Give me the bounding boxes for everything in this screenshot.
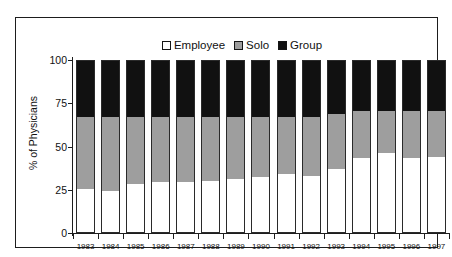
stacked-bar bbox=[126, 60, 145, 233]
y-tick-mark bbox=[68, 233, 72, 234]
bar-column bbox=[374, 60, 399, 233]
bar-segment-employee bbox=[303, 176, 320, 232]
x-tick-label: 1991 bbox=[274, 242, 299, 256]
x-tick-label: 1992 bbox=[299, 242, 324, 256]
bar-segment-employee bbox=[227, 179, 244, 232]
bar-column bbox=[424, 60, 449, 233]
x-tick-mark bbox=[449, 233, 450, 239]
bar-segment-solo bbox=[127, 117, 144, 184]
stacked-bar bbox=[176, 60, 195, 233]
x-tick-mark bbox=[73, 233, 74, 239]
bar-column bbox=[223, 60, 248, 233]
x-tick-label: 1986 bbox=[148, 242, 173, 256]
chart-frame: Employee Solo Group % of Physicians 0255… bbox=[15, 17, 438, 248]
stacked-bar bbox=[277, 60, 296, 233]
bar-segment-group bbox=[77, 61, 94, 117]
stacked-bar bbox=[377, 60, 396, 233]
bar-segment-group bbox=[378, 61, 395, 111]
stacked-bar bbox=[101, 60, 120, 233]
legend-label-employee: Employee bbox=[174, 39, 225, 51]
bar-column bbox=[98, 60, 123, 233]
bar-segment-group bbox=[202, 61, 219, 117]
bar-segment-employee bbox=[353, 158, 370, 232]
bar-segment-solo bbox=[303, 117, 320, 175]
y-tick-label: 75 bbox=[55, 98, 67, 109]
bar-column bbox=[399, 60, 424, 233]
x-tick-mark bbox=[349, 233, 350, 239]
bar-segment-employee bbox=[127, 184, 144, 232]
y-tick-mark bbox=[68, 147, 72, 148]
bar-segment-group bbox=[127, 61, 144, 117]
bar-column bbox=[173, 60, 198, 233]
bar-segment-group bbox=[303, 61, 320, 117]
bar-segment-group bbox=[353, 61, 370, 111]
chart-legend: Employee Solo Group bbox=[16, 39, 452, 51]
stacked-bar bbox=[226, 60, 245, 233]
stacked-bar bbox=[201, 60, 220, 233]
white-square-icon bbox=[162, 41, 171, 50]
bar-segment-group bbox=[152, 61, 169, 117]
bar-segment-employee bbox=[328, 169, 345, 232]
gray-square-icon bbox=[234, 41, 243, 50]
x-tick-group bbox=[73, 233, 449, 240]
bar-segment-solo bbox=[177, 117, 194, 182]
bar-segment-employee bbox=[278, 174, 295, 232]
bar-segment-solo bbox=[378, 111, 395, 154]
x-tick-mark bbox=[324, 233, 325, 239]
stacked-bar bbox=[327, 60, 346, 233]
x-tick-label: 1990 bbox=[248, 242, 273, 256]
y-tick-mark bbox=[68, 103, 72, 104]
legend-item-employee: Employee bbox=[162, 39, 225, 51]
bar-column bbox=[324, 60, 349, 233]
bar-segment-employee bbox=[252, 177, 269, 232]
y-tick-label: 25 bbox=[55, 185, 67, 196]
bar-segment-solo bbox=[202, 117, 219, 180]
bar-segment-employee bbox=[102, 191, 119, 232]
y-tick-mark bbox=[68, 190, 72, 191]
stacked-bar bbox=[302, 60, 321, 233]
bar-segment-solo bbox=[152, 117, 169, 182]
x-tick-label: 1994 bbox=[349, 242, 374, 256]
bar-segment-group bbox=[177, 61, 194, 117]
bar-segment-group bbox=[227, 61, 244, 117]
bar-segment-solo bbox=[428, 111, 445, 157]
bar-segment-employee bbox=[77, 189, 94, 232]
x-tick-label: 1989 bbox=[223, 242, 248, 256]
bar-column bbox=[248, 60, 273, 233]
x-tick-label: 1996 bbox=[399, 242, 424, 256]
x-tick-mark bbox=[424, 233, 425, 239]
x-tick-mark bbox=[148, 233, 149, 239]
x-tick-mark bbox=[173, 233, 174, 239]
legend-item-group: Group bbox=[278, 39, 322, 51]
bar-column bbox=[274, 60, 299, 233]
x-tick-label: 1983 bbox=[73, 242, 98, 256]
bar-segment-employee bbox=[202, 181, 219, 232]
legend-item-solo: Solo bbox=[234, 39, 269, 51]
stacked-bar bbox=[402, 60, 421, 233]
bar-segment-employee bbox=[403, 158, 420, 232]
bar-segment-solo bbox=[328, 114, 345, 169]
x-tick-label: 1984 bbox=[98, 242, 123, 256]
legend-label-solo: Solo bbox=[246, 39, 269, 51]
stacked-bar bbox=[76, 60, 95, 233]
bar-segment-employee bbox=[428, 157, 445, 232]
x-tick-mark bbox=[123, 233, 124, 239]
y-axis-label: % of Physicians bbox=[27, 73, 39, 193]
bar-segment-solo bbox=[102, 117, 119, 191]
bar-segment-employee bbox=[177, 182, 194, 232]
x-tick-label: 1988 bbox=[198, 242, 223, 256]
x-tick-mark bbox=[399, 233, 400, 239]
x-tick-mark bbox=[274, 233, 275, 239]
bar-segment-group bbox=[252, 61, 269, 117]
x-tick-mark bbox=[299, 233, 300, 239]
x-tick-mark bbox=[198, 233, 199, 239]
x-tick-label: 1997 bbox=[424, 242, 449, 256]
y-tick-label: 0 bbox=[61, 228, 67, 239]
bar-column bbox=[148, 60, 173, 233]
stacked-bar bbox=[251, 60, 270, 233]
y-tick-mark bbox=[68, 60, 72, 61]
bar-column bbox=[198, 60, 223, 233]
x-tick-label: 1987 bbox=[173, 242, 198, 256]
bar-segment-solo bbox=[77, 117, 94, 189]
bar-segment-group bbox=[403, 61, 420, 111]
